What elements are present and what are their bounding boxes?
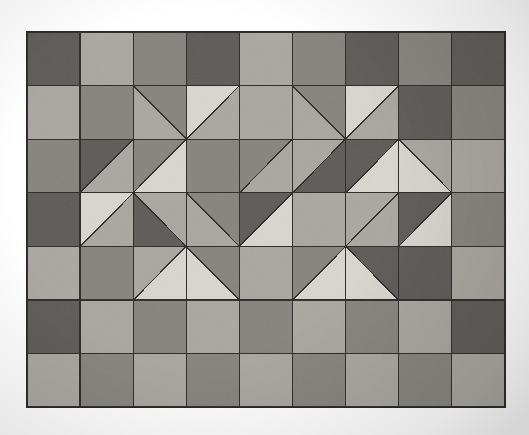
quilt-cell xyxy=(80,300,133,354)
quilt-cell xyxy=(452,246,505,300)
quilt-cell xyxy=(80,32,133,86)
quilt-pattern-svg xyxy=(0,0,529,435)
quilt-cell xyxy=(293,32,346,86)
quilt-cell xyxy=(452,86,505,140)
quilt-cell xyxy=(133,300,186,354)
quilt-cell xyxy=(452,193,505,247)
quilt-cell xyxy=(27,86,80,140)
quilt-cell xyxy=(239,86,292,140)
quilt-cell xyxy=(452,32,505,86)
quilt-cell xyxy=(239,354,292,408)
quilt-cell xyxy=(186,32,239,86)
quilt-cell xyxy=(399,86,452,140)
quilt-cell xyxy=(80,354,133,408)
quilt-cell xyxy=(399,354,452,408)
quilt-cell xyxy=(27,300,80,354)
quilt-cell xyxy=(293,300,346,354)
quilt-cell xyxy=(239,246,292,300)
quilt-cell xyxy=(346,32,399,86)
quilt-cell xyxy=(239,300,292,354)
quilt-cell xyxy=(133,32,186,86)
quilt-image xyxy=(0,0,529,435)
quilt-cell xyxy=(80,246,133,300)
quilt-cell xyxy=(80,86,133,140)
quilt-cell xyxy=(186,300,239,354)
quilt-cell xyxy=(186,139,239,193)
quilt-cell xyxy=(346,300,399,354)
quilt-cell xyxy=(293,193,346,247)
quilt-cell xyxy=(239,32,292,86)
quilt-cell xyxy=(293,354,346,408)
quilt-cell xyxy=(346,354,399,408)
quilt-cell xyxy=(27,354,80,408)
quilt-cell xyxy=(27,139,80,193)
quilt-cell xyxy=(452,139,505,193)
quilt-cell xyxy=(452,300,505,354)
quilt-cell xyxy=(399,300,452,354)
quilt-cell xyxy=(399,32,452,86)
quilt-cell xyxy=(399,246,452,300)
quilt-cell xyxy=(452,354,505,408)
quilt-cell xyxy=(27,246,80,300)
quilt-cell xyxy=(186,354,239,408)
quilt-cell xyxy=(133,354,186,408)
quilt-cell xyxy=(27,32,80,86)
quilt-cell xyxy=(27,193,80,247)
